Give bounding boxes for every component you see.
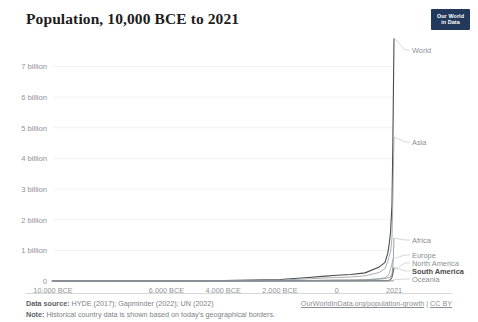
data-source-label: Data source: xyxy=(26,299,70,308)
leader-line xyxy=(395,238,410,240)
leader-line xyxy=(395,279,410,280)
footer-links: OurWorldInData.org/population-growth | C… xyxy=(301,298,452,309)
y-tick-label: 4 billion xyxy=(0,154,47,163)
data-source-value: HYDE (2017); Gapminder (2022); UN (2022) xyxy=(72,299,214,308)
series-lines xyxy=(53,39,394,281)
footer-sources: Data source: HYDE (2017); Gapminder (202… xyxy=(26,298,275,320)
series-line-south-america xyxy=(53,268,394,281)
leader-line xyxy=(395,268,410,271)
y-tick-label: 5 billion xyxy=(0,123,47,132)
y-tick-label: 2 billion xyxy=(0,215,47,224)
gridlines xyxy=(53,66,394,250)
y-tick-label: 3 billion xyxy=(0,185,47,194)
leader-line xyxy=(395,255,410,258)
series-label-oceania[interactable]: Oceania xyxy=(412,275,440,284)
chart-page: Population, 10,000 BCE to 2021 Our World… xyxy=(0,0,478,322)
chart-plot-area[interactable]: 01 billion2 billion3 billion4 billion5 b… xyxy=(0,0,478,292)
series-label-world[interactable]: World xyxy=(412,46,431,55)
license-link[interactable]: CC BY xyxy=(430,299,452,308)
chart-svg xyxy=(0,0,478,292)
owid-url-link[interactable]: OurWorldInData.org/population-growth xyxy=(301,299,424,308)
series-label-asia[interactable]: Asia xyxy=(412,138,426,147)
note-label: Note: xyxy=(26,310,44,319)
link-separator: | xyxy=(426,299,428,308)
y-tick-label: 7 billion xyxy=(0,62,47,71)
note-value: Historical country data is shown based o… xyxy=(46,310,275,319)
footer-divider xyxy=(26,293,452,294)
series-label-africa[interactable]: Africa xyxy=(412,236,431,245)
label-leader-lines xyxy=(395,39,410,280)
y-tick-label: 0 xyxy=(0,277,47,286)
y-tick-label: 1 billion xyxy=(0,246,47,255)
y-tick-label: 6 billion xyxy=(0,93,47,102)
leader-line xyxy=(395,137,410,142)
note-line: Note: Historical country data is shown b… xyxy=(26,309,275,320)
leader-line xyxy=(395,39,410,50)
series-line-world xyxy=(53,39,394,281)
data-source-line: Data source: HYDE (2017); Gapminder (202… xyxy=(26,298,275,309)
